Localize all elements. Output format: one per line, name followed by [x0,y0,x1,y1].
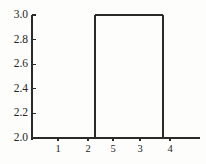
leaf-label-5: 5 [110,144,115,155]
y-tick-label-2.4: 2.4 [14,83,28,95]
y-tick-label-3.0: 3.0 [14,9,28,21]
leaf-label-4: 4 [167,144,172,155]
leaf-label-1: 1 [55,144,60,155]
y-tick-label-2.6: 2.6 [14,58,28,70]
leaf-label-3: 3 [137,144,142,155]
y-tick-label-2.8: 2.8 [14,34,28,46]
leaf-label-2: 2 [85,144,90,155]
axes-group [32,15,200,141]
dendrogram-figure: 2.02.22.42.62.83.0 12534 [0,0,206,164]
dendrogram-tree [58,15,170,138]
dendrogram-plot [0,0,206,164]
y-tick-label-2.0: 2.0 [14,132,28,144]
y-tick-label-2.2: 2.2 [14,108,28,120]
